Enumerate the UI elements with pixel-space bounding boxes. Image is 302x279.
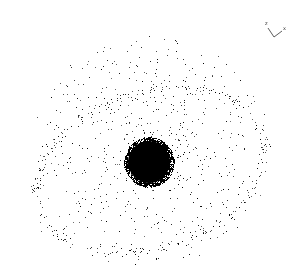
axis-label-b: x (283, 26, 286, 31)
orientation-axis-triad: z x (260, 18, 294, 48)
axis-label-a: z (265, 21, 268, 26)
3d-viewport[interactable]: z x (0, 0, 302, 279)
point-cloud-scatter (0, 0, 302, 279)
